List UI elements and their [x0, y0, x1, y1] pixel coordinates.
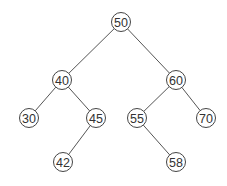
node-label: 42 [56, 156, 70, 170]
tree-node-60: 60 [167, 71, 186, 90]
tree-edge-50-40 [69, 29, 114, 74]
node-label: 50 [114, 16, 128, 30]
tree-edge-60-70 [182, 87, 200, 110]
tree-node-30: 30 [20, 109, 39, 128]
tree-edge-45-42 [69, 126, 91, 155]
tree-node-42: 42 [54, 153, 73, 172]
tree-edge-40-45 [68, 87, 89, 111]
node-label: 45 [89, 112, 103, 126]
node-label: 58 [169, 156, 183, 170]
node-label: 40 [55, 74, 69, 88]
tree-edge-50-60 [128, 29, 170, 73]
tree-node-50: 50 [112, 13, 131, 32]
tree-node-70: 70 [197, 109, 216, 128]
tree-node-40: 40 [53, 71, 72, 90]
tree-edge-60-55 [144, 87, 169, 112]
node-label: 70 [199, 112, 213, 126]
node-label: 30 [22, 112, 36, 126]
binary-tree-diagram: 504060304555704258 [0, 0, 227, 186]
tree-node-58: 58 [167, 153, 186, 172]
edges-layer [35, 29, 200, 155]
tree-edge-55-58 [143, 125, 169, 155]
node-label: 55 [130, 112, 144, 126]
node-label: 60 [169, 74, 183, 88]
tree-node-45: 45 [87, 109, 106, 128]
tree-node-55: 55 [128, 109, 147, 128]
tree-edge-40-30 [35, 87, 56, 111]
